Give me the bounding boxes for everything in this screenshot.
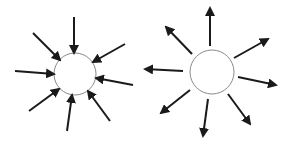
circle-shape [190,50,234,94]
outward-arrow-icon [203,99,208,136]
inward-arrow-icon [88,91,110,121]
inward-arrow-icon [15,71,54,74]
diagram-canvas [0,0,290,141]
inward-arrow-icon [67,95,72,131]
outward-arrow-icon [145,69,183,71]
inward-arrow-icon [93,44,125,62]
outward-arrow-icon [228,94,250,124]
outward-arrows-diagram [145,8,276,136]
inward-arrow-icon [33,33,60,60]
outward-arrow-icon [238,77,276,85]
outward-arrow-icon [166,27,192,54]
inward-arrows-diagram [15,17,133,131]
outward-arrow-icon [161,90,190,113]
outward-arrow-icon [234,39,268,58]
inward-arrow-icon [96,78,133,85]
inward-arrow-icon [29,89,59,111]
